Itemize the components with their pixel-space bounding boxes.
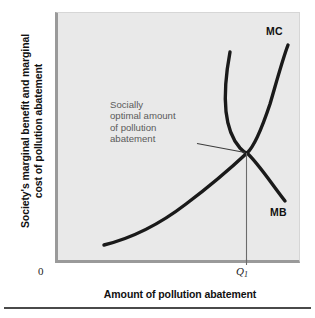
q1-tick-label: Q1 — [236, 265, 248, 279]
y-axis-title-line2: cost of pollution abatement — [32, 64, 44, 198]
y-axis-title: Society's marginal benefit and marginal … — [19, 13, 45, 249]
mb-curve-visible — [104, 153, 285, 245]
q1-base: Q — [236, 265, 244, 277]
annotation-line-3: of pollution — [110, 122, 198, 133]
pollution-abatement-figure: Society's marginal benefit and marginal … — [0, 0, 315, 318]
annotation-line-4: abatement — [110, 133, 198, 144]
mc-curve-label: MC — [266, 25, 283, 37]
annotation-line-1: Socially — [110, 99, 198, 110]
x-axis-title: Amount of pollution abatement — [55, 288, 305, 300]
socially-optimal-annotation: Socially optimal amount of pollution aba… — [110, 99, 198, 145]
bottom-rule — [4, 307, 311, 309]
annotation-line-2: optimal amount — [110, 110, 198, 121]
origin-label: 0 — [38, 265, 44, 277]
y-axis-title-line1: Society's marginal benefit and marginal — [19, 34, 31, 228]
mb-curve-label: MB — [270, 206, 287, 218]
curves-layer — [0, 0, 315, 318]
q1-subscript: 1 — [244, 270, 248, 279]
mc-curve-visible — [225, 45, 288, 153]
